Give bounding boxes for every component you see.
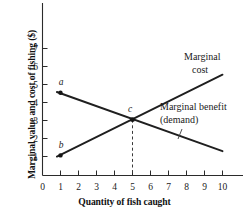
chart-figure: 7 6 5 4 3 2 1 0 1 2 3 4 5 6 7 8 9 10 (0, 0, 249, 214)
y-axis-ticks (43, 49, 48, 157)
x-tick-label-2: 2 (76, 182, 81, 192)
marginal-benefit-label-line2: (demand) (160, 114, 198, 126)
x-tick-label-3: 3 (94, 182, 99, 192)
x-axis-ticks (61, 171, 223, 176)
marginal-benefit-label-line1: Marginal benefit (160, 101, 227, 112)
x-tick-label-8: 8 (184, 182, 189, 192)
y-axis-title: Marginal value and cost of fishing ($) (26, 7, 37, 203)
x-tick-label-9: 9 (202, 182, 207, 192)
marginal-cost-label-line2: cost (192, 64, 208, 75)
x-tick-label-7: 7 (166, 182, 171, 192)
marginal-cost-label-line1: Marginal (184, 51, 221, 62)
x-tick-label-5: 5 (130, 182, 135, 192)
x-tick-label-1: 1 (58, 182, 63, 192)
x-tick-label-4: 4 (112, 182, 117, 192)
data-point-a (58, 91, 62, 95)
chart-plot-area: 7 6 5 4 3 2 1 0 1 2 3 4 5 6 7 8 9 10 (0, 0, 249, 214)
data-point-b (58, 153, 62, 157)
x-tick-label-0: 0 (40, 182, 45, 192)
x-tick-label-6: 6 (148, 182, 153, 192)
point-label-c: c (128, 104, 133, 114)
data-point-c (130, 117, 135, 122)
x-axis-title: Quantity of fish caught (0, 196, 249, 207)
point-label-a: a (59, 77, 64, 87)
x-tick-label-10: 10 (218, 182, 228, 192)
point-label-b: b (59, 140, 64, 150)
